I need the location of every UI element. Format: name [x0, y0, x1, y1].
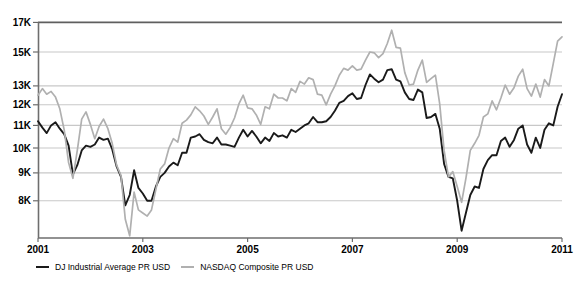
y-tick-label: 17K [13, 17, 32, 28]
y-tick-label: 10K [13, 143, 32, 154]
nasdaq-line-swatch [181, 266, 194, 268]
legend-label-djia: DJ Industrial Average PR USD [55, 262, 170, 272]
djia-line-swatch [36, 266, 49, 268]
legend-item-nasdaq: NASDAQ Composite PR USD [181, 262, 313, 272]
legend-item-djia: DJ Industrial Average PR USD [36, 262, 170, 272]
y-tick-label: 12K [13, 99, 32, 110]
y-tick-label: 13K [13, 80, 32, 91]
y-tick-label: 8K [18, 195, 32, 206]
legend-label-nasdaq: NASDAQ Composite PR USD [200, 262, 313, 272]
y-tick-label: 9K [18, 167, 32, 178]
price-chart: 17K15K13K12K11K10K9K8K200120032005200720… [0, 0, 585, 283]
x-tick-label: 2005 [236, 244, 259, 255]
x-tick-label: 2009 [446, 244, 469, 255]
x-tick-label: 2007 [341, 244, 364, 255]
y-tick-label: 15K [13, 47, 32, 58]
x-tick-label: 2011 [551, 244, 573, 255]
chart-legend: DJ Industrial Average PR USD NASDAQ Comp… [36, 262, 314, 272]
chart-canvas: 17K15K13K12K11K10K9K8K200120032005200720… [0, 0, 585, 283]
djia-line [38, 69, 562, 231]
x-tick-label: 2001 [27, 244, 50, 255]
nasdaq-line [38, 30, 562, 236]
x-tick-label: 2003 [132, 244, 155, 255]
y-tick-label: 11K [13, 120, 32, 131]
